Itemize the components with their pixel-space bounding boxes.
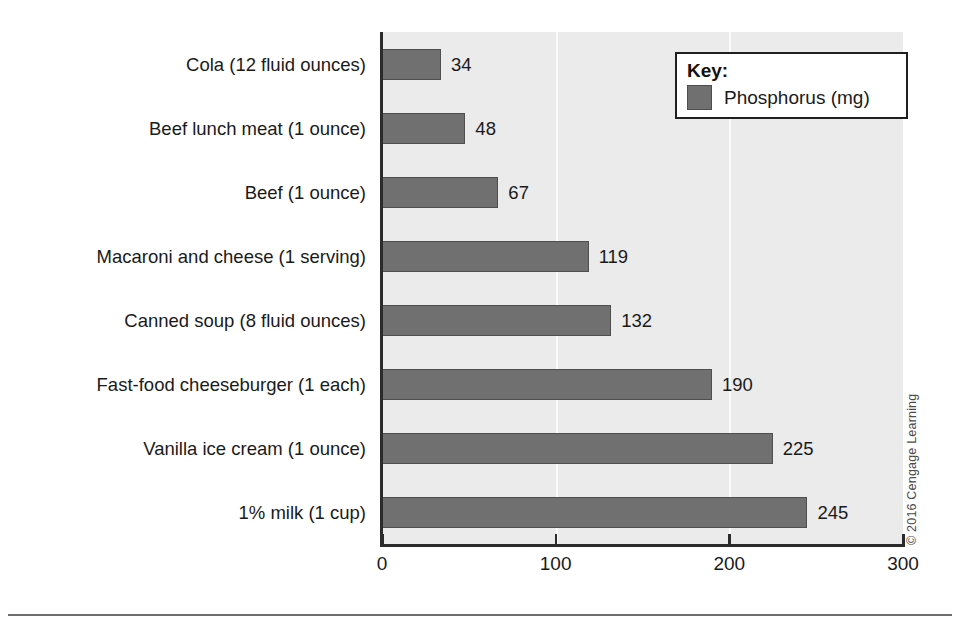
gridline-100 <box>556 32 558 545</box>
bar-value-label: 132 <box>611 305 652 336</box>
bar-value-label: 225 <box>773 433 814 464</box>
bar-value-label: 245 <box>807 497 848 528</box>
category-label: Vanilla ice cream (1 ounce) <box>143 433 366 464</box>
category-label: 1% milk (1 cup) <box>239 497 366 528</box>
x-tick-label-100: 100 <box>540 553 572 575</box>
category-label: Beef lunch meat (1 ounce) <box>149 113 366 144</box>
bottom-divider <box>8 614 952 616</box>
bar <box>382 305 611 336</box>
x-tick-label-300: 300 <box>887 553 919 575</box>
bar-value-label: 190 <box>712 369 753 400</box>
bar <box>382 49 441 80</box>
y-axis-line <box>380 32 383 547</box>
category-label: Fast-food cheeseburger (1 each) <box>97 369 366 400</box>
legend-title: Key: <box>687 59 896 83</box>
x-tick-100 <box>555 534 558 545</box>
bar <box>382 113 465 144</box>
bar-value-label: 48 <box>465 113 496 144</box>
legend-entry-label: Phosphorus (mg) <box>724 87 870 109</box>
bar-value-label: 34 <box>441 49 472 80</box>
x-tick-label-0: 0 <box>377 553 388 575</box>
copyright-credit: © 2016 Cengage Learning <box>905 394 919 545</box>
category-axis: Cola (12 fluid ounces)Beef lunch meat (1… <box>0 32 374 545</box>
bar-value-label: 119 <box>589 241 629 272</box>
phosphorus-bar-chart-figure: Cola (12 fluid ounces)Beef lunch meat (1… <box>0 0 965 634</box>
category-label: Canned soup (8 fluid ounces) <box>124 305 366 336</box>
x-tick-200 <box>728 534 731 545</box>
category-label: Cola (12 fluid ounces) <box>186 49 366 80</box>
x-axis-line <box>380 544 905 547</box>
category-label: Macaroni and cheese (1 serving) <box>97 241 366 272</box>
category-label: Beef (1 ounce) <box>245 177 366 208</box>
bar <box>382 497 807 528</box>
bar <box>382 369 712 400</box>
legend-color-swatch <box>687 85 712 110</box>
bar <box>382 433 773 464</box>
bar <box>382 241 589 272</box>
x-tick-label-200: 200 <box>713 553 745 575</box>
x-tick-0 <box>381 534 384 545</box>
legend-key-box: Key: Phosphorus (mg) <box>675 52 908 119</box>
bar-value-label: 67 <box>498 177 529 208</box>
legend-entry: Phosphorus (mg) <box>687 85 896 110</box>
bar <box>382 177 498 208</box>
